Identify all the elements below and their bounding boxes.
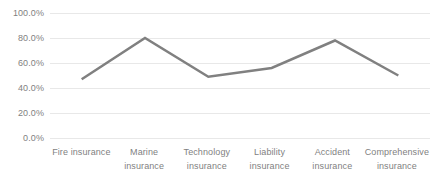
x-axis-category-line: Fire insurance: [51, 145, 112, 159]
series-line-group: [50, 13, 430, 138]
x-axis-category-label: Accidentinsurance: [301, 145, 364, 191]
y-axis-tick-label: 60.0%: [0, 58, 44, 68]
x-axis-category-label: Fire insurance: [50, 145, 113, 191]
x-axis-category-line: insurance: [239, 159, 300, 173]
x-axis-category-line: insurance: [302, 159, 363, 173]
gridline: [50, 138, 430, 139]
x-axis-category-label: Comprehensiveinsurance: [364, 145, 430, 191]
x-axis-category-line: Comprehensive: [365, 145, 429, 159]
x-axis-category-line: Accident: [302, 145, 363, 159]
y-axis-tick-label: 100.0%: [0, 8, 44, 18]
plot-area: [50, 13, 430, 138]
y-axis-tick-label: 80.0%: [0, 33, 44, 43]
x-axis-category-line: Technology: [176, 145, 237, 159]
x-axis-category-line: Marine: [114, 145, 175, 159]
x-axis-category-label: Marineinsurance: [113, 145, 176, 191]
y-axis: 0.0%20.0%40.0%60.0%80.0%100.0%: [0, 0, 44, 191]
x-axis: Fire insuranceMarineinsuranceTechnologyi…: [50, 145, 430, 191]
x-axis-category-label: Liabilityinsurance: [238, 145, 301, 191]
x-axis-category-line: insurance: [114, 159, 175, 173]
line-chart: 0.0%20.0%40.0%60.0%80.0%100.0% Fire insu…: [0, 0, 442, 191]
x-axis-category-line: insurance: [176, 159, 237, 173]
x-axis-category-line: Liability: [239, 145, 300, 159]
y-axis-tick-label: 20.0%: [0, 108, 44, 118]
x-axis-category-line: insurance: [365, 159, 429, 173]
y-axis-tick-label: 0.0%: [0, 133, 44, 143]
y-axis-tick-label: 40.0%: [0, 83, 44, 93]
series-line-1: [82, 38, 399, 79]
x-axis-category-label: Technologyinsurance: [175, 145, 238, 191]
